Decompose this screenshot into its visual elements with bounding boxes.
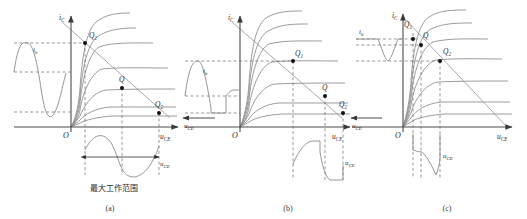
panel-a-q2-point (157, 111, 161, 115)
panel-b-caption: (b) (283, 204, 293, 213)
panel-a-dashed-guides (14, 43, 159, 175)
panel-b-q1-label: Q1 (295, 49, 303, 59)
panel-c-input-waveform (356, 39, 403, 61)
panel-a-y-axis-label: iC (59, 13, 65, 23)
panel-b-q2-label: Q2 (339, 100, 347, 110)
panel-a-q1-label: Q1 (89, 31, 97, 41)
panel-b-q-label: Q (322, 83, 328, 92)
panel-c-x-axis-label: uCE (497, 132, 508, 142)
panel-b-input-waveform (185, 61, 240, 113)
panel-b-q2-point (341, 111, 345, 115)
panel-b-x-axis-label: uCE (332, 132, 343, 142)
panel-b-q-point (323, 94, 327, 98)
panel-c-output-curves (403, 10, 512, 127)
panel-c-input-axis-label: uCE (352, 122, 362, 131)
panel-c-q2-point (438, 59, 442, 63)
panel-c-output-wave-label: uCE (443, 152, 453, 161)
panel-a-output-wave-label: uCE (160, 160, 170, 169)
panel-a-origin-label: O (63, 131, 69, 140)
panel-c-q-label: Q (423, 31, 429, 40)
panel-b-y-axis-label: iC (228, 13, 234, 23)
panel-a-input-waveform (14, 43, 66, 117)
panel-b: iC uCE uCE O ib uCE Q1 Q Q2 (183, 11, 355, 180)
panel-a-q2-label: Q2 (155, 100, 163, 110)
panel-a-input-wave-label: ib (33, 46, 38, 55)
panel-b-q1-point (291, 59, 295, 63)
panel-b-output-waveform (293, 141, 343, 180)
panel-b-input-wave-label: ib (203, 67, 208, 76)
panel-b-output-wave-label: uCE (345, 159, 355, 168)
panel-c-y-axis-label: iC (392, 11, 398, 21)
figure-svg: iC uCE O ib uCE Q1 Q Q2 最大工作范围 (0, 0, 527, 219)
panel-c-output-waveform (413, 134, 440, 175)
panel-a-q-point (120, 86, 124, 90)
panel-b-output-curves (240, 11, 350, 127)
panel-a: iC uCE O ib uCE Q1 Q Q2 最大工作范围 (14, 13, 178, 193)
panel-a-x-axis-label: uCE (160, 132, 171, 142)
panel-c-q1-point (411, 37, 415, 41)
panel-a-range-annotation: 最大工作范围 (90, 183, 138, 193)
panel-a-q1-point (83, 41, 87, 45)
panel-c-q1-label: Q1 (404, 20, 412, 30)
panel-c: iC uCE uCE O ib uCE Q1 Q Q2 (351, 10, 512, 178)
panel-c-q-point (419, 43, 423, 47)
panel-b-origin-label: O (232, 131, 238, 140)
panel-c-caption: (c) (443, 204, 452, 213)
panel-b-dashed-guides (185, 61, 343, 180)
panel-a-q-label: Q (119, 75, 125, 84)
figure-transistor-characteristics: iC uCE O ib uCE Q1 Q Q2 最大工作范围 (0, 0, 527, 219)
panel-c-q2-label: Q2 (443, 47, 451, 57)
panel-b-input-axis-label: uCE (184, 122, 194, 131)
panel-c-input-wave-label: ib (359, 28, 364, 37)
panel-a-caption: (a) (106, 204, 115, 213)
panel-c-origin-label: O (395, 131, 401, 140)
